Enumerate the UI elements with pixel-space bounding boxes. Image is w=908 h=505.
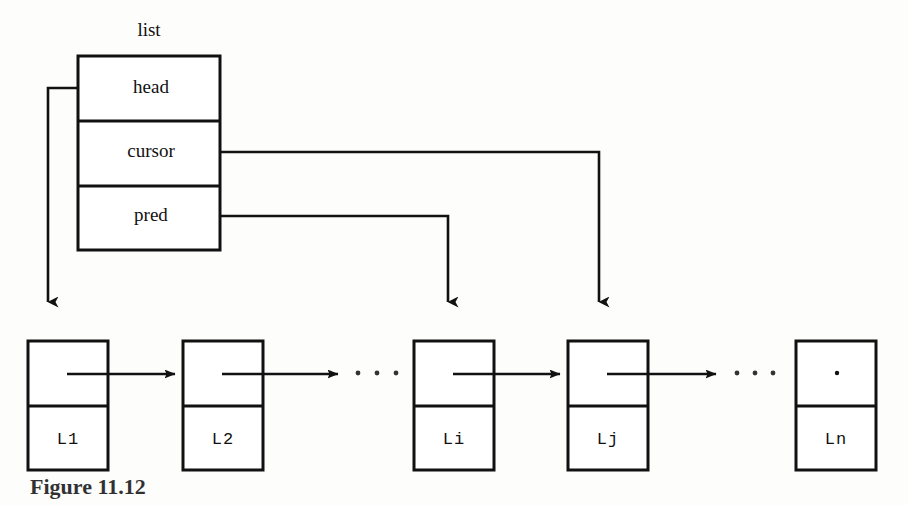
linked-list-diagram: list head cursor pred L1 L2 — [0, 0, 908, 505]
pointer-head-to-L1 — [48, 88, 78, 302]
null-pointer-dot-Ln — [835, 371, 839, 375]
ellipsis-after-Lj — [735, 371, 776, 376]
node-label-L2: L2 — [212, 430, 234, 449]
field-label-cursor: cursor — [127, 140, 175, 161]
node-label-L1: L1 — [57, 430, 79, 449]
ellipsis-after-L2 — [356, 371, 399, 376]
figure-caption: Figure 11.12 — [30, 478, 146, 500]
figure-caption-clip: Figure 11.12 — [0, 478, 908, 505]
figure-container: list head cursor pred L1 L2 — [0, 0, 908, 505]
field-label-head: head — [133, 76, 169, 97]
field-label-pred: pred — [134, 204, 168, 225]
node-label-Ln: Ln — [825, 430, 847, 449]
pointer-cursor-to-Lj — [220, 152, 599, 302]
node-label-Lj: Lj — [597, 430, 619, 449]
node-label-Li: Li — [443, 430, 465, 449]
struct-title: list — [137, 19, 161, 40]
pointer-pred-to-Li — [220, 216, 448, 302]
